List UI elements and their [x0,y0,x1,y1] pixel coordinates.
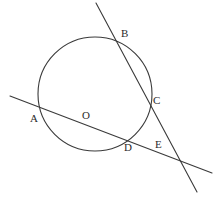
secant-line-BCE [96,3,197,192]
point-label-O: O [82,110,90,121]
circle-O-shape [38,37,152,151]
point-label-D: D [124,142,132,153]
point-label-E: E [155,139,162,150]
secant-line-ADE [10,96,212,173]
point-label-B: B [121,28,128,39]
geometry-canvas [0,0,224,199]
point-label-C: C [153,95,160,106]
geometry-figure: A B C D E O [0,0,224,199]
point-label-A: A [30,113,38,124]
